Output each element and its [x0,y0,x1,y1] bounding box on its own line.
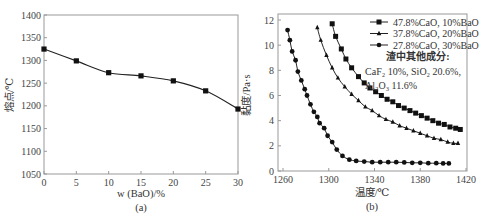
triangle-marker [324,53,328,57]
y-tick-label: 1300 [21,55,41,66]
chart-a-x-label: w (BaO)/% [117,188,165,200]
circle-marker [302,87,307,92]
square-marker [74,58,79,63]
x-tick-label: 25 [201,177,211,188]
square-marker [407,108,412,113]
circle-marker [330,140,335,145]
circle-marker [377,43,382,48]
circle-marker [317,121,322,126]
y-tick-label: 1100 [21,146,41,157]
square-marker [419,113,424,118]
triangle-marker [456,141,460,145]
legend-entry: 27.8%CaO, 30%BaO [393,40,479,51]
x-tick-label: 10 [104,177,114,188]
circle-marker [410,160,415,165]
square-marker [333,34,338,39]
y-tick-label: 1250 [21,78,41,89]
square-marker [203,88,208,93]
legend-entry: 37.8%CaO, 20%BaO [393,28,479,39]
chart-b-annotation-line1: CaF₂ 10%, SiO₂ 20.6%, [365,66,461,77]
chart-b-legend: 47.8%CaO, 10%BaO37.8%CaO, 20%BaO27.8%CaO… [370,17,479,51]
figure: 10501100115012001250130013501400 0510152… [0,0,486,216]
circle-marker [441,161,446,166]
chart-a-y-label: 熔点/℃ [3,77,15,112]
circle-marker [287,38,292,43]
square-marker [458,127,463,132]
square-marker [171,78,176,83]
square-marker [390,99,395,104]
square-marker [379,93,384,98]
circle-marker [295,69,300,74]
square-marker [385,97,390,102]
circle-marker [434,161,439,166]
chart-a-series [41,46,240,111]
square-marker [138,73,143,78]
circle-marker [418,160,423,165]
x-tick-label: 0 [42,177,47,188]
circle-marker [299,78,304,83]
square-marker [396,103,401,108]
x-tick-label: 1380 [410,174,430,185]
square-marker [339,46,344,51]
y-tick-label: 1150 [21,123,41,134]
square-marker [430,118,435,123]
chart-a-caption: (a) [135,202,147,214]
y-tick-label: 1050 [21,169,41,180]
circle-marker [347,157,352,162]
chart-a-y-ticks: 10501100115012001250130013501400 [21,10,47,180]
circle-marker [386,160,391,165]
square-marker [453,126,458,131]
circle-marker [402,160,407,165]
y-tick-label: 8 [269,65,274,76]
x-tick-label: 15 [136,177,146,188]
y-tick-label: 4 [269,115,274,126]
circle-marker [285,28,290,33]
circle-marker [370,160,375,165]
chart-b-annotation-line2: Al₂O₃ 11.6% [365,80,417,91]
circle-marker [311,109,316,114]
triangle-marker [363,104,367,108]
x-tick-label: 30 [233,177,243,188]
circle-marker [308,102,313,107]
square-marker [436,121,441,126]
square-marker [106,70,111,75]
legend-entry: 47.8%CaO, 10%BaO [393,17,479,28]
y-tick-label: 6 [269,90,274,101]
y-tick-label: 2 [269,140,274,151]
square-marker [41,46,46,51]
x-tick-label: 1340 [365,174,385,185]
chart-b: 024681012 12601300134013801420 47.8%CaO,… [240,14,479,213]
square-marker [447,124,452,129]
x-tick-label: 5 [74,177,79,188]
triangle-marker [315,25,319,29]
triangle-marker [319,37,323,41]
circle-marker [340,154,345,159]
circle-marker [315,114,320,119]
square-marker [377,20,382,25]
x-tick-label: 1300 [319,174,339,185]
circle-marker [426,161,431,166]
square-marker [235,106,240,111]
series-line [44,49,238,109]
circle-marker [394,160,399,165]
square-marker [330,21,335,26]
y-tick-label: 1200 [21,100,41,111]
circle-marker [354,159,359,164]
y-tick-label: 10 [264,40,274,51]
chart-b-y-label: 黏度/Pa·s [240,75,252,116]
chart-b-caption: (b) [366,201,379,213]
circle-marker [362,159,367,164]
circle-marker [334,147,339,152]
x-tick-label: 1260 [273,174,293,185]
square-marker [343,57,348,62]
circle-marker [446,161,451,166]
square-marker [413,111,418,116]
chart-a: 10501100115012001250130013501400 0510152… [3,10,243,215]
x-tick-label: 20 [168,177,178,188]
chart-b-annotation-title: 渣中其他成分: [386,50,449,62]
circle-marker [322,126,327,131]
circle-marker [325,133,330,138]
chart-a-frame [44,15,238,174]
circle-marker [378,160,383,165]
square-marker [349,65,354,70]
